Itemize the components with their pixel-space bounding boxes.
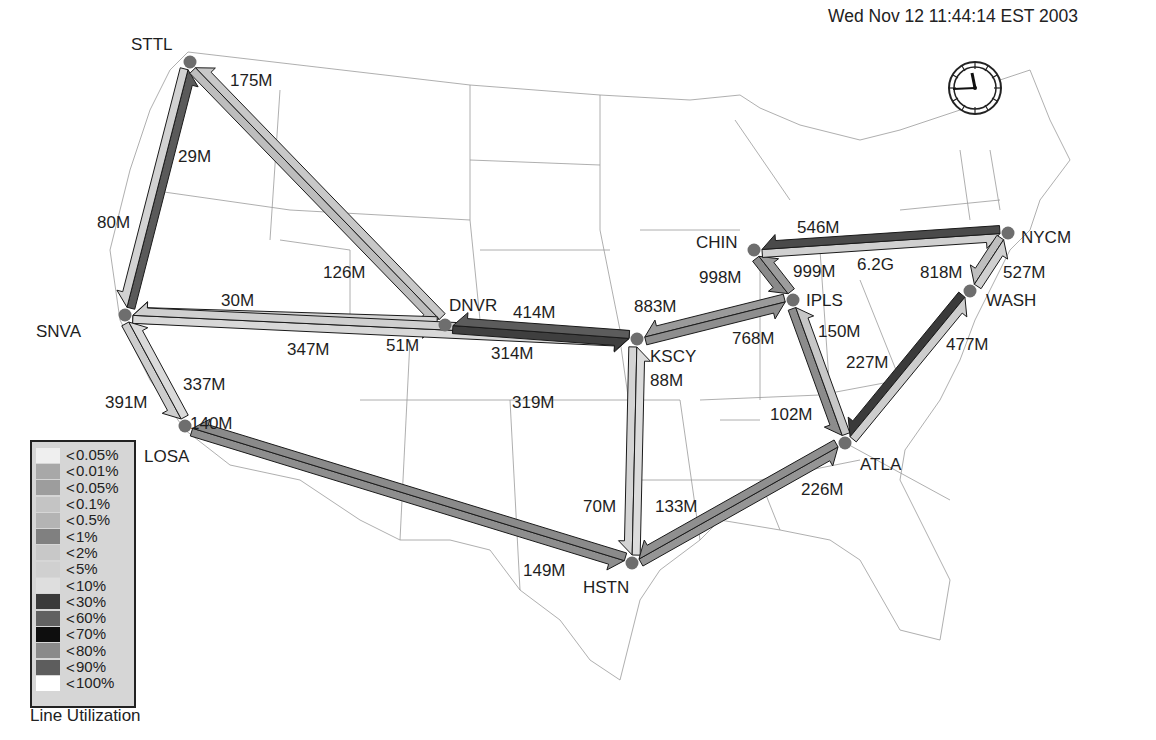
network-links <box>117 68 1008 570</box>
traffic-label: 226M <box>801 480 844 499</box>
legend-swatch <box>36 545 60 560</box>
legend-swatch <box>36 513 60 528</box>
legend-label: 5% <box>76 562 98 576</box>
traffic-label: 30M <box>221 291 254 310</box>
less-than-icon: < <box>66 659 76 676</box>
legend-item: <0.01% <box>36 463 130 479</box>
utilization-legend: <0.05%<0.01%<0.05%<0.1%<0.5%<1%<2%<5%<10… <box>30 440 136 708</box>
legend-label: 1% <box>76 530 98 544</box>
node-hstn[interactable] <box>626 557 639 570</box>
legend-swatch <box>36 660 60 675</box>
traffic-label: 133M <box>655 497 698 516</box>
node-label: NYCM <box>1021 228 1071 247</box>
legend-label: 2% <box>76 546 98 560</box>
less-than-icon: < <box>66 463 76 480</box>
traffic-label: 51M <box>386 336 419 355</box>
node-label: DNVR <box>449 296 497 315</box>
legend-item: <30% <box>36 594 130 610</box>
traffic-label: 70M <box>583 497 616 516</box>
legend-item: <0.5% <box>36 512 130 528</box>
less-than-icon: < <box>66 593 76 610</box>
traffic-label: 227M <box>846 353 889 372</box>
traffic-label: 337M <box>183 375 226 394</box>
less-than-icon: < <box>66 512 76 529</box>
traffic-label: 149M <box>523 561 566 580</box>
legend-item: <2% <box>36 545 130 561</box>
legend-label: 0.05% <box>76 481 119 495</box>
traffic-label: 175M <box>230 71 273 90</box>
less-than-icon: < <box>66 561 76 578</box>
legend-swatch <box>36 594 60 609</box>
node-sttl[interactable] <box>184 56 197 69</box>
node-nycm[interactable] <box>1002 227 1015 240</box>
legend-item: <0.05% <box>36 447 130 463</box>
node-chin[interactable] <box>748 244 761 257</box>
legend-title: Line Utilization <box>30 706 141 726</box>
less-than-icon: < <box>66 626 76 643</box>
node-label: HSTN <box>583 578 629 597</box>
traffic-label: 477M <box>946 335 989 354</box>
timestamp-label: Wed Nov 12 11:44:14 EST 2003 <box>828 6 1078 27</box>
traffic-label: 414M <box>513 303 556 322</box>
traffic-label: 818M <box>920 263 963 282</box>
traffic-label: 768M <box>732 329 775 348</box>
traffic-label: 527M <box>1003 263 1046 282</box>
node-wash[interactable] <box>964 285 977 298</box>
legend-swatch <box>36 464 60 479</box>
traffic-label: 88M <box>650 371 683 390</box>
traffic-arrow <box>117 68 188 307</box>
traffic-arrow <box>190 428 624 570</box>
node-label: IPLS <box>806 291 843 310</box>
traffic-label: 391M <box>105 393 148 412</box>
node-snva[interactable] <box>119 309 132 322</box>
legend-item: <80% <box>36 643 130 659</box>
less-than-icon: < <box>66 610 76 627</box>
node-ipls[interactable] <box>787 294 800 307</box>
legend-item: <70% <box>36 626 130 642</box>
less-than-icon: < <box>66 577 76 594</box>
traffic-label: 6.2G <box>857 255 894 274</box>
legend-swatch <box>36 627 60 642</box>
legend-item: <10% <box>36 577 130 593</box>
legend-label: 100% <box>76 676 114 690</box>
node-label: WASH <box>986 291 1036 310</box>
traffic-label: 150M <box>818 322 861 341</box>
legend-swatch <box>36 529 60 544</box>
node-label: ATLA <box>860 455 902 474</box>
traffic-label: 29M <box>178 147 211 166</box>
less-than-icon: < <box>66 496 76 513</box>
legend-label: 80% <box>76 644 106 658</box>
legend-label: 0.1% <box>76 497 110 511</box>
traffic-arrow <box>196 68 446 320</box>
traffic-arrow <box>193 419 627 561</box>
analog-clock-icon <box>949 62 1001 114</box>
legend-swatch <box>36 448 60 463</box>
traffic-label: 140M <box>190 414 233 433</box>
node-label: KSCY <box>650 347 696 366</box>
node-dnvr[interactable] <box>439 319 452 332</box>
traffic-label: 126M <box>323 263 366 282</box>
traffic-label: 102M <box>770 405 813 424</box>
legend-label: 0.01% <box>76 464 119 478</box>
traffic-label: 999M <box>793 262 836 281</box>
node-label: CHIN <box>696 233 738 252</box>
legend-label: 60% <box>76 611 106 625</box>
node-kscy[interactable] <box>631 333 644 346</box>
node-label: SNVA <box>36 322 82 341</box>
node-atla[interactable] <box>839 437 852 450</box>
traffic-label: 546M <box>797 218 840 237</box>
traffic-arrow <box>127 70 198 309</box>
legend-item: <0.1% <box>36 496 130 512</box>
legend-swatch <box>36 643 60 658</box>
traffic-arrow <box>190 68 440 320</box>
legend-item: <100% <box>36 675 130 691</box>
legend-label: 10% <box>76 579 106 593</box>
node-label: LOSA <box>144 447 190 466</box>
traffic-label: 883M <box>634 297 677 316</box>
legend-swatch <box>36 676 60 691</box>
less-than-icon: < <box>66 675 76 692</box>
less-than-icon: < <box>66 528 76 545</box>
legend-label: 0.5% <box>76 513 110 527</box>
legend-item: <1% <box>36 528 130 544</box>
less-than-icon: < <box>66 544 76 561</box>
